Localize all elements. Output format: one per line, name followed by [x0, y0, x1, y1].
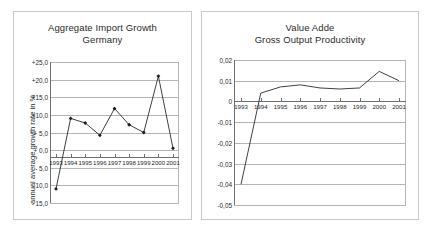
- chart-panel-right: Value Adde Gross Output Productivity 0,0…: [201, 11, 419, 220]
- right-chart-plot-area: 0,020,010-0,01-0,02-0,03-0,04-0,05199319…: [234, 60, 406, 205]
- right-chart-title-line2: Gross Output Productivity: [202, 34, 418, 46]
- right-chart-title-line1: Value Adde: [202, 22, 418, 34]
- y-axis-tick-label: 0,02: [220, 57, 232, 64]
- y-axis-tick-label: +25,0: [32, 59, 48, 66]
- y-axis-tick-label: -0,05: [217, 202, 232, 209]
- left-chart-title: Aggregate Import Growth Germany: [14, 22, 191, 45]
- screenshot-root: Aggregate Import Growth Germany annual a…: [0, 0, 431, 231]
- y-axis-tick-label: +10,0: [32, 111, 48, 118]
- right-chart-title: Value Adde Gross Output Productivity: [202, 22, 418, 45]
- chart-panel-left: Aggregate Import Growth Germany annual a…: [13, 11, 192, 220]
- y-axis-tick-label: -0,03: [217, 160, 232, 167]
- y-axis-tick-label: +20,0: [32, 76, 48, 83]
- gridline: [234, 205, 406, 206]
- left-chart-plot-area: +25,0+20,0+15,0+10,0+ 5,0+ 0,0- 5,0- 10,…: [50, 62, 179, 203]
- data-series: [234, 60, 406, 205]
- y-axis-tick-label: + 0,0: [34, 147, 48, 154]
- y-axis-tick-label: + 5,0: [34, 129, 48, 136]
- data-point-marker: [54, 187, 58, 191]
- y-axis-tick-label: - 15,0: [32, 200, 48, 207]
- y-axis-tick-label: - 5,0: [35, 164, 48, 171]
- y-axis-tick-label: 0,01: [220, 77, 232, 84]
- y-axis-tick-label: -0,04: [217, 181, 232, 188]
- y-axis-tick-label: 0: [228, 98, 232, 105]
- y-axis-tick-label: +15,0: [32, 94, 48, 101]
- y-axis-tick-label: - 10,0: [32, 182, 48, 189]
- data-series: [50, 62, 179, 203]
- left-chart-title-line2: Germany: [14, 34, 191, 46]
- series-line: [56, 76, 173, 189]
- data-point-marker: [69, 117, 73, 121]
- y-axis-tick-label: -0,02: [217, 139, 232, 146]
- series-line: [241, 71, 399, 184]
- data-point-marker: [142, 131, 146, 135]
- gridline: [50, 203, 179, 204]
- data-point-marker: [171, 146, 175, 150]
- left-chart-title-line1: Aggregate Import Growth: [14, 22, 191, 34]
- y-axis-tick-label: -0,01: [217, 119, 232, 126]
- data-point-marker: [156, 74, 160, 78]
